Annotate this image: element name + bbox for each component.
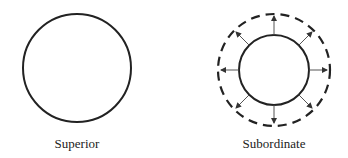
- diagram-canvas: [0, 0, 348, 158]
- subordinate-label: Subordinate: [229, 136, 319, 152]
- inner-circle: [239, 35, 309, 105]
- superior-circle: [23, 14, 131, 122]
- outward-arrows: [221, 16, 327, 123]
- subordinate-figure: [218, 14, 330, 126]
- superior-label: Superior: [37, 136, 117, 152]
